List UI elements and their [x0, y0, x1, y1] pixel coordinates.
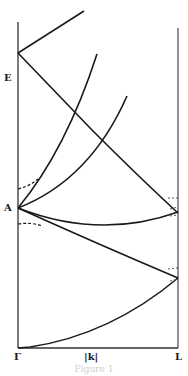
dashed-lower-A — [18, 223, 42, 226]
band-A-mid — [18, 96, 127, 208]
x-right-label: L — [175, 352, 182, 362]
x-left-label: Γ — [14, 352, 21, 362]
band-top-descending — [18, 53, 178, 213]
figure-caption: Figure 1 — [0, 364, 188, 374]
band-top-upper — [18, 11, 84, 53]
band-diagram — [0, 0, 188, 376]
y-axis-label: E — [4, 73, 12, 83]
dashed-L-lower-1 — [168, 268, 178, 269]
band-A-to-L — [18, 208, 178, 225]
dashed-upper-A — [18, 179, 38, 189]
point-A-label: A — [4, 203, 12, 213]
x-mid-label: |k| — [84, 352, 98, 362]
band-bottom — [18, 278, 178, 348]
